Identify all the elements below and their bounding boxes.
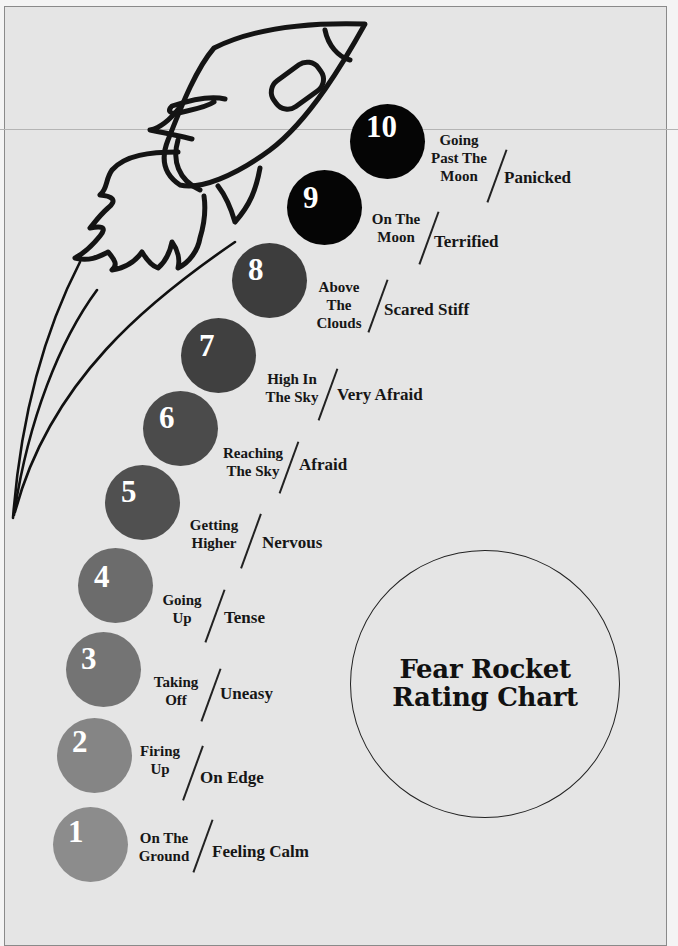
level-9-circle xyxy=(287,170,362,245)
level-5-circle xyxy=(105,465,180,540)
level-7-number: 7 xyxy=(199,330,215,361)
level-6-number: 6 xyxy=(159,402,175,433)
level-10-feeling: Panicked xyxy=(504,168,571,188)
level-3-number: 3 xyxy=(81,643,97,674)
level-2-circle xyxy=(57,718,132,793)
level-7-feeling: Very Afraid xyxy=(337,385,423,405)
level-1-circle xyxy=(53,807,128,882)
level-6-stage: Reaching The Sky xyxy=(220,444,286,480)
level-8-circle xyxy=(232,243,307,318)
level-10-number: 10 xyxy=(366,111,397,142)
level-7-circle xyxy=(181,318,256,393)
level-2-feeling: On Edge xyxy=(200,768,264,788)
level-2-number: 2 xyxy=(72,726,88,757)
level-8-feeling: Scared Stiff xyxy=(384,300,469,320)
level-10-stage: Going Past The Moon xyxy=(426,131,492,185)
level-3-stage: Taking Off xyxy=(150,673,202,709)
level-6-feeling: Afraid xyxy=(299,455,347,475)
level-5-number: 5 xyxy=(121,476,137,507)
level-6-circle xyxy=(143,391,218,466)
level-3-circle xyxy=(66,632,141,707)
level-8-number: 8 xyxy=(248,254,264,285)
level-7-stage: High In The Sky xyxy=(259,370,325,406)
level-2-stage: Firing Up xyxy=(140,742,180,778)
level-4-stage: Going Up xyxy=(160,591,204,627)
level-1-number: 1 xyxy=(68,816,84,847)
level-5-feeling: Nervous xyxy=(262,533,322,553)
level-8-stage: Above The Clouds xyxy=(308,278,370,332)
level-1-stage: On The Ground xyxy=(132,829,196,865)
level-9-number: 9 xyxy=(303,182,319,213)
chart-title: Fear Rocket Rating Chart xyxy=(350,655,620,711)
level-4-feeling: Tense xyxy=(224,608,265,628)
level-9-feeling: Terrified xyxy=(434,232,499,252)
level-3-feeling: Uneasy xyxy=(220,684,273,704)
level-4-number: 4 xyxy=(94,561,110,592)
level-5-stage: Getting Higher xyxy=(186,516,242,552)
level-1-feeling: Feeling Calm xyxy=(212,842,309,862)
level-9-stage: On The Moon xyxy=(366,210,426,246)
level-4-circle xyxy=(78,548,153,623)
